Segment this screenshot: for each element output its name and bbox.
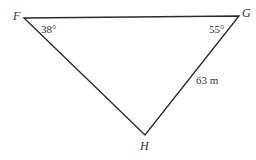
triangle-diagram: F G H 38° 55° 63 m [0,0,256,160]
angle-label-g: 55° [209,23,224,35]
side-label-gh: 63 m [196,74,219,86]
vertex-label-f: F [12,9,21,23]
vertex-label-h: H [139,139,150,153]
vertex-label-g: G [242,6,251,20]
angle-label-f: 38° [41,23,56,35]
